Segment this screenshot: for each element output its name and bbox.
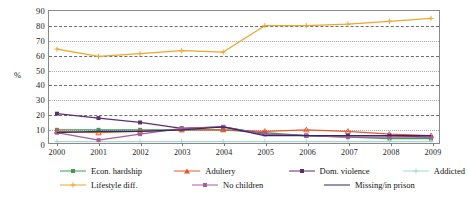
x-axis-tick-label: 2004 — [216, 148, 233, 157]
x-axis-tick-label: 2009 — [425, 148, 442, 157]
legend-label: No children — [223, 180, 265, 190]
legend-swatch-icon — [403, 166, 429, 176]
legend-item-addicted[interactable]: Addicted — [403, 164, 467, 178]
legend-item-dom-violence[interactable]: Dom. violence — [289, 164, 403, 178]
legend-marker-icon — [184, 169, 190, 174]
legend-marker-icon — [71, 169, 75, 173]
legend-marker-icon — [203, 183, 207, 187]
x-axis-tick-mark — [391, 143, 392, 146]
series-addicted — [54, 139, 433, 143]
legend-item-lifestyle-diff[interactable]: Lifestyle diff. — [60, 178, 192, 192]
data-point — [179, 48, 184, 53]
legend-swatch-icon — [174, 166, 200, 176]
legend-swatch-icon — [60, 180, 86, 190]
legend-swatch-icon — [192, 180, 218, 190]
y-axis-tick-label: 20 — [36, 110, 45, 120]
x-axis-tick-mark — [182, 143, 183, 146]
data-point — [138, 51, 143, 56]
x-axis-tick-label: 2003 — [174, 148, 191, 157]
legend-label: Adultery — [205, 166, 237, 176]
legend-label: Missing/in prison — [355, 180, 417, 190]
x-axis-tick-label: 2001 — [90, 148, 107, 157]
x-axis-tick-mark — [266, 143, 267, 146]
data-point — [96, 54, 101, 59]
x-axis-tick-mark — [141, 143, 142, 146]
data-point — [97, 116, 101, 120]
y-axis-tick-label: 80 — [36, 21, 45, 31]
y-axis-tick-label: 0 — [41, 140, 45, 150]
legend-label: Dom. violence — [320, 166, 372, 176]
legend-item-no-children[interactable]: No children — [192, 178, 324, 192]
y-axis-tick-label: 30 — [36, 95, 45, 105]
data-point — [55, 112, 59, 116]
data-point — [428, 16, 433, 21]
x-axis-tick-mark — [99, 143, 100, 146]
legend-swatch-icon — [324, 180, 350, 190]
legend-item-adultery[interactable]: Adultery — [174, 164, 288, 178]
y-axis-tick-label: 50 — [36, 66, 45, 76]
x-axis-tick-label: 2005 — [257, 148, 274, 157]
plot-area: 0102030405060708090 20002001200220032004… — [48, 10, 440, 144]
line-chart: % 0102030405060708090 200020012002200320… — [0, 0, 467, 201]
series-layer — [49, 11, 439, 143]
x-axis-tick-mark — [57, 143, 58, 146]
series-lifestyle-diff — [54, 16, 433, 59]
legend-row: Lifestyle diff.No childrenMissing/in pri… — [60, 178, 467, 192]
data-point — [54, 47, 59, 52]
legend: Econ. hardshipAdulteryDom. violenceAddic… — [0, 164, 467, 192]
series-dom-violence — [55, 112, 433, 139]
data-point — [138, 132, 142, 136]
data-point — [304, 23, 309, 28]
legend-marker-icon — [300, 169, 304, 173]
x-axis-tick-label: 2008 — [383, 148, 400, 157]
x-axis-tick-mark — [349, 143, 350, 146]
x-axis-tick-label: 2006 — [299, 148, 316, 157]
y-axis-tick-label: 60 — [36, 51, 45, 61]
data-point — [97, 138, 101, 142]
legend-item-econ-hardship[interactable]: Econ. hardship — [60, 164, 174, 178]
data-point — [345, 22, 350, 27]
series-missing-in-prison — [57, 127, 431, 136]
y-axis-title: % — [14, 70, 21, 80]
data-point — [387, 19, 392, 24]
legend-label: Addicted — [434, 166, 467, 176]
legend-item-missing-in-prison[interactable]: Missing/in prison — [324, 178, 417, 192]
legend-swatch-icon — [60, 166, 86, 176]
legend-label: Lifestyle diff. — [91, 180, 140, 190]
y-axis-tick-label: 70 — [36, 36, 45, 46]
legend-row: Econ. hardshipAdulteryDom. violenceAddic… — [60, 164, 467, 178]
legend-marker-icon — [413, 169, 418, 174]
data-point — [138, 120, 142, 124]
y-axis-tick-label: 40 — [36, 80, 45, 90]
x-axis-tick-label: 2002 — [132, 148, 149, 157]
legend-label: Econ. hardship — [91, 166, 144, 176]
legend-swatch-icon — [289, 166, 315, 176]
legend-marker-icon — [71, 183, 76, 188]
y-axis-tick-label: 90 — [36, 6, 45, 16]
x-axis-tick-mark — [224, 143, 225, 146]
x-axis-tick-mark — [308, 143, 309, 146]
x-axis-tick-mark — [433, 143, 434, 146]
y-axis-tick-label: 10 — [36, 125, 45, 135]
x-axis-tick-label: 2007 — [341, 148, 358, 157]
x-axis-tick-label: 2000 — [49, 148, 66, 157]
